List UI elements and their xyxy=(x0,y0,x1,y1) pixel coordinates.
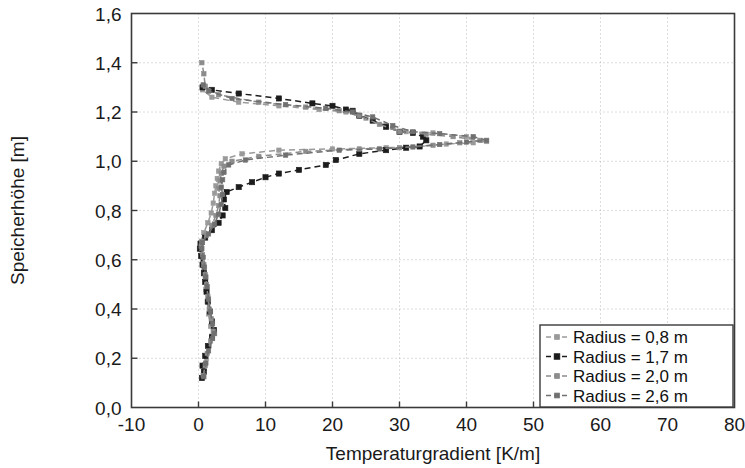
data-point xyxy=(236,185,241,190)
data-series-layer xyxy=(197,61,489,381)
data-point xyxy=(209,211,213,215)
data-point xyxy=(212,191,216,195)
data-point xyxy=(226,163,230,167)
x-tick-label: 50 xyxy=(523,414,544,435)
data-point xyxy=(219,202,223,206)
series-3 xyxy=(199,61,482,378)
data-point xyxy=(438,131,442,135)
x-tick-label: 40 xyxy=(456,414,477,435)
data-point xyxy=(438,142,442,146)
data-point xyxy=(397,130,401,134)
data-point xyxy=(411,145,415,149)
legend-marker-sample xyxy=(555,374,560,379)
legend-label: Radius = 1,7 m xyxy=(573,348,688,367)
data-point xyxy=(220,192,224,196)
data-point xyxy=(337,148,341,152)
data-point xyxy=(210,336,214,340)
data-point xyxy=(222,170,226,174)
plot-canvas: -10010203040506070800,00,20,40,60,81,01,… xyxy=(0,0,745,468)
y-tick-label: 1,2 xyxy=(95,102,121,123)
legend-marker-sample xyxy=(555,335,560,340)
data-point xyxy=(200,61,204,65)
x-axis-title: Temperaturgradient [K/m] xyxy=(326,443,540,464)
chart-figure: -10010203040506070800,00,20,40,60,81,01,… xyxy=(0,0,745,468)
data-point xyxy=(464,140,468,144)
y-tick-label: 0,2 xyxy=(95,348,121,369)
x-tick-label: 20 xyxy=(322,414,343,435)
data-point xyxy=(216,212,220,216)
data-point xyxy=(371,115,375,119)
data-point xyxy=(201,255,205,259)
data-point xyxy=(206,297,210,301)
data-point xyxy=(263,175,268,180)
data-point xyxy=(357,151,362,156)
x-tick-label: 60 xyxy=(590,414,611,435)
data-point xyxy=(276,171,281,176)
series-line xyxy=(201,90,487,378)
data-point xyxy=(220,178,224,182)
data-point xyxy=(212,331,216,335)
data-point xyxy=(202,265,206,269)
data-point xyxy=(219,185,223,189)
data-point xyxy=(206,232,210,236)
data-point xyxy=(333,157,338,162)
x-tick-label: 10 xyxy=(255,414,276,435)
data-point xyxy=(200,240,204,244)
data-point xyxy=(202,375,206,379)
x-tick-label: 70 xyxy=(657,414,678,435)
data-point xyxy=(237,100,241,104)
data-point xyxy=(200,246,204,250)
data-point xyxy=(411,130,415,134)
data-point xyxy=(212,222,216,226)
data-point xyxy=(230,96,234,100)
y-tick-label: 1,0 xyxy=(95,151,121,172)
x-tick-label: 30 xyxy=(389,414,410,435)
y-tick-label: 0,8 xyxy=(95,201,121,222)
data-point xyxy=(243,158,247,162)
data-point xyxy=(240,152,244,156)
data-point xyxy=(377,147,381,151)
data-point xyxy=(250,180,255,185)
data-point xyxy=(391,123,395,127)
legend[interactable]: Radius = 0,8 mRadius = 1,7 mRadius = 2,0… xyxy=(540,325,733,407)
y-tick-label: 1,4 xyxy=(95,53,122,74)
data-point xyxy=(350,110,354,114)
y-axis-title: Speicherhöhe [m] xyxy=(7,136,28,285)
x-tick-label: 0 xyxy=(193,414,204,435)
data-point xyxy=(471,134,475,138)
y-tick-label: 0,0 xyxy=(95,398,121,419)
series-1 xyxy=(198,88,488,381)
y-tick-label: 1,6 xyxy=(95,4,121,25)
legend-label: Radius = 2,0 m xyxy=(573,367,688,386)
data-point xyxy=(377,122,381,126)
data-point xyxy=(206,349,210,353)
data-point xyxy=(296,167,301,172)
data-point xyxy=(484,138,488,142)
data-point xyxy=(277,148,281,152)
legend-label: Radius = 0,8 m xyxy=(573,328,688,347)
data-point xyxy=(210,322,214,326)
y-tick-label: 0,6 xyxy=(95,250,121,271)
data-point xyxy=(276,96,281,101)
series-4 xyxy=(200,83,489,379)
data-point xyxy=(204,361,208,365)
data-point xyxy=(210,95,214,99)
data-point xyxy=(310,101,315,106)
x-tick-label: 80 xyxy=(724,414,745,435)
data-point xyxy=(206,89,210,93)
x-tick-label: -10 xyxy=(118,414,145,435)
data-point xyxy=(202,72,206,76)
data-point xyxy=(223,157,227,161)
data-point xyxy=(222,164,226,168)
data-point xyxy=(211,201,215,205)
legend-marker-sample xyxy=(555,393,560,398)
data-point xyxy=(201,83,205,87)
data-point xyxy=(283,102,287,106)
data-point xyxy=(236,91,241,96)
data-point xyxy=(283,153,287,157)
data-point xyxy=(204,275,208,279)
series-line xyxy=(200,87,426,378)
legend-label: Radius = 2,6 m xyxy=(573,387,688,406)
y-tick-label: 0,4 xyxy=(95,299,122,320)
legend-marker-sample xyxy=(554,354,559,359)
